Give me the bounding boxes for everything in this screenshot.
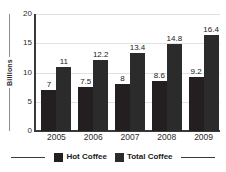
x-axis-tick-label: 2006 xyxy=(84,133,103,142)
legend-rule-right xyxy=(181,157,215,158)
bar-group: 8.614.8 xyxy=(152,14,182,131)
plot-area: 7117.512.2813.48.614.89.216.4 xyxy=(36,14,220,131)
legend-item-total-coffee: Total Coffee xyxy=(115,153,173,162)
bar-total-coffee: 16.4 xyxy=(204,35,219,131)
bar-value-label: 14.8 xyxy=(167,35,183,43)
bar-value-label: 16.4 xyxy=(203,26,219,34)
x-axis-tick-labels: 20052006200720082009 xyxy=(36,133,220,147)
bar-group: 711 xyxy=(41,14,71,131)
bar-hot-coffee: 9.2 xyxy=(189,77,204,131)
bar-total-coffee: 13.4 xyxy=(130,53,145,131)
legend-swatch-icon-hot-coffee xyxy=(54,153,63,162)
bar-chart: Billions 05101520 7117.512.2813.48.614.8… xyxy=(0,0,226,172)
bar-hot-coffee: 7.5 xyxy=(78,87,93,131)
bar-group: 9.216.4 xyxy=(189,14,219,131)
bar-value-label: 8.6 xyxy=(154,72,165,80)
bar-group: 813.4 xyxy=(115,14,145,131)
legend-label-hot-coffee: Hot Coffee xyxy=(66,153,106,161)
y-axis-title: Billions xyxy=(5,57,14,88)
x-axis-tick-label: 2007 xyxy=(121,133,140,142)
bar-total-coffee: 12.2 xyxy=(93,60,108,131)
legend-rule-left xyxy=(11,157,45,158)
bar-value-label: 11 xyxy=(60,58,68,66)
x-axis-tick-label: 2005 xyxy=(47,133,66,142)
y-axis-tick-label: 5 xyxy=(28,98,32,106)
bar-hot-coffee: 8.6 xyxy=(152,81,167,131)
bar-group: 7.512.2 xyxy=(78,14,108,131)
bar-groups: 7117.512.2813.48.614.89.216.4 xyxy=(36,14,220,131)
bar-value-label: 8 xyxy=(120,75,124,83)
bar-value-label: 7.5 xyxy=(80,78,91,86)
x-axis-tick-label: 2008 xyxy=(157,133,176,142)
bar-value-label: 12.2 xyxy=(93,51,109,59)
bar-hot-coffee: 8 xyxy=(115,84,130,131)
y-axis-tick-label: 15 xyxy=(23,39,32,47)
y-axis-tick-labels: 05101520 xyxy=(14,0,34,172)
y-axis-tick-label: 20 xyxy=(23,10,32,18)
bar-value-label: 13.4 xyxy=(130,44,146,52)
y-axis-tick-label: 10 xyxy=(23,69,32,77)
bar-total-coffee: 14.8 xyxy=(167,44,182,131)
chart-legend: Hot Coffee Total Coffee xyxy=(0,150,226,164)
y-axis-tick-label: 0 xyxy=(28,127,32,135)
legend-swatch-icon-total-coffee xyxy=(115,153,124,162)
bar-value-label: 7 xyxy=(47,81,51,89)
bar-value-label: 9.2 xyxy=(191,68,202,76)
bar-total-coffee: 11 xyxy=(56,67,71,131)
legend-item-hot-coffee: Hot Coffee xyxy=(54,153,106,162)
legend-label-total-coffee: Total Coffee xyxy=(127,153,173,161)
x-axis-tick-label: 2009 xyxy=(194,133,213,142)
bar-hot-coffee: 7 xyxy=(41,90,56,131)
